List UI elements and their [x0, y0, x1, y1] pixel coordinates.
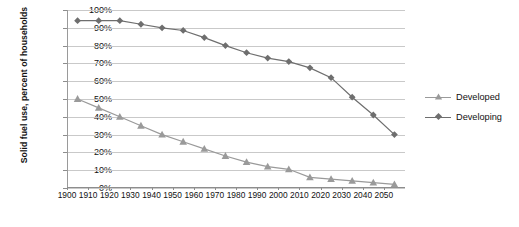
- x-tick-label: 1930: [121, 190, 140, 200]
- data-point-developing: [307, 64, 314, 71]
- x-tick-mark: [299, 187, 300, 190]
- x-tick-label: 1950: [163, 190, 182, 200]
- x-tick-label: 1980: [227, 190, 246, 200]
- chart-legend: Developed Developing: [425, 87, 519, 127]
- legend-item-developing[interactable]: Developing: [425, 107, 519, 127]
- x-tick-label: 1990: [248, 190, 267, 200]
- x-tick-label: 1900: [58, 190, 77, 200]
- x-tick-label: 2010: [290, 190, 309, 200]
- series-line-developed: [78, 99, 395, 184]
- legend-marker-triangle-icon: [425, 92, 451, 102]
- data-point-developing: [201, 34, 208, 41]
- x-tick-label: 1910: [79, 190, 98, 200]
- x-tick-mark: [130, 187, 131, 190]
- x-tick-label: 2050: [375, 190, 394, 200]
- y-axis-title: Solid fuel use, percent of households: [19, 0, 29, 175]
- x-tick-mark: [109, 187, 110, 190]
- legend-label-developing: Developing: [456, 112, 502, 122]
- series-line-developing: [78, 21, 395, 135]
- x-tick-label: 1970: [206, 190, 225, 200]
- x-tick-mark: [278, 187, 279, 190]
- data-point-developing: [116, 17, 123, 24]
- data-point-developing: [243, 49, 250, 56]
- x-tick-label: 2020: [311, 190, 330, 200]
- x-tick-label: 1940: [142, 190, 161, 200]
- x-tick-label: 1960: [184, 190, 203, 200]
- x-tick-mark: [215, 187, 216, 190]
- x-tick-mark: [152, 187, 153, 190]
- x-tick-mark: [88, 187, 89, 190]
- triangle-icon: [434, 92, 443, 101]
- data-point-developing: [264, 55, 271, 62]
- plot-area: [67, 10, 405, 188]
- x-tick-label: 1920: [100, 190, 119, 200]
- data-point-developing: [95, 17, 102, 24]
- x-tick-label: 2040: [353, 190, 372, 200]
- x-tick-mark: [236, 187, 237, 190]
- x-tick-mark: [321, 187, 322, 190]
- legend-marker-diamond-icon: [425, 112, 451, 122]
- x-tick-label: 2000: [269, 190, 288, 200]
- x-tick-mark: [363, 187, 364, 190]
- legend-label-developed: Developed: [456, 92, 500, 102]
- x-tick-mark: [194, 187, 195, 190]
- data-point-developing: [138, 21, 145, 28]
- data-point-developing: [285, 58, 292, 65]
- data-point-developing: [180, 27, 187, 34]
- x-tick-mark: [173, 187, 174, 190]
- data-point-developing: [222, 42, 229, 49]
- x-tick-mark: [342, 187, 343, 190]
- x-tick-mark: [67, 187, 68, 190]
- data-point-developing: [159, 24, 166, 31]
- x-tick-mark: [384, 187, 385, 190]
- data-point-developing: [74, 17, 81, 24]
- x-tick-label: 2030: [332, 190, 351, 200]
- legend-item-developed[interactable]: Developed: [425, 87, 519, 107]
- data-point-developed: [74, 95, 82, 102]
- chart-container: Solid fuel use, percent of households 0%…: [0, 0, 519, 227]
- diamond-icon: [434, 112, 443, 121]
- x-tick-mark: [257, 187, 258, 190]
- series-plot: [67, 10, 405, 188]
